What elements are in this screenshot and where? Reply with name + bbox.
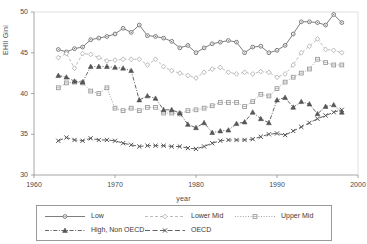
legend-item-upper-mid: Upper Mid <box>233 210 325 223</box>
series-oecd <box>56 108 344 151</box>
x-tick-label: 1960 <box>14 181 54 188</box>
legend-label: Upper Mid <box>281 212 313 219</box>
x-tick-label: 1990 <box>257 181 297 188</box>
chart-legend: LowLower MidUpper MidHigh, Non OECDOECD <box>36 205 332 241</box>
legend-swatch-triangle-icon <box>43 224 87 237</box>
legend-label: High, Non OECD <box>91 226 144 233</box>
x-tick-label: 1980 <box>176 181 216 188</box>
legend-swatch-circle-icon <box>43 210 87 223</box>
chart-figure: EHII Gini year 3035404550196019701980199… <box>0 0 367 244</box>
legend-label: Low <box>91 212 104 219</box>
legend-item-oecd: OECD <box>143 224 235 237</box>
legend-swatch-square-icon <box>233 210 277 223</box>
y-tick-label: 30 <box>10 171 28 178</box>
x-tick-label: 1970 <box>95 181 135 188</box>
legend-item-low: Low <box>43 210 135 223</box>
legend-item-lower-mid: Lower Mid <box>143 210 235 223</box>
y-tick-label: 50 <box>10 8 28 15</box>
series-low <box>56 13 343 55</box>
legend-label: Lower Mid <box>191 212 223 219</box>
legend-item-high-non-oecd: High, Non OECD <box>43 224 135 237</box>
legend-swatch-cross-icon <box>143 224 187 237</box>
y-tick-label: 40 <box>10 90 28 97</box>
x-tick-label: 2000 <box>338 181 367 188</box>
legend-swatch-diamond-icon <box>143 210 187 223</box>
y-tick-label: 35 <box>10 130 28 137</box>
legend-label: OECD <box>191 226 211 233</box>
y-tick-label: 45 <box>10 49 28 56</box>
